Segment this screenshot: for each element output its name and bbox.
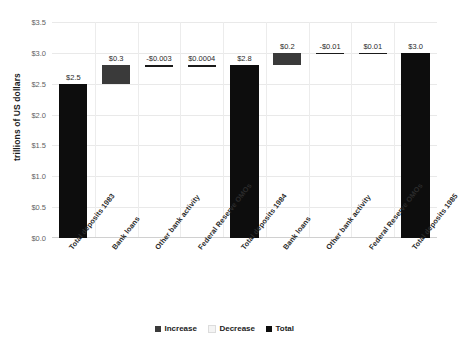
legend-item-total[interactable]: Total [266,324,294,333]
y-axis-tick-00: $0.0 [0,234,46,243]
column-separator [309,22,310,238]
bar-value-label-1: $0.3 [109,54,124,63]
bar-value-label-7: $0.01 [363,42,382,51]
legend-item-increase[interactable]: Increase [155,324,197,333]
bar-decrease-2[interactable] [145,65,173,66]
gridline [52,22,437,23]
column-separator [138,22,139,238]
column-separator [394,22,395,238]
column-separator [180,22,181,238]
column-separator [351,22,352,238]
legend-swatch-decrease-icon [208,325,216,333]
bar-value-label-2: -$0.003 [146,54,171,63]
bar-increase-7[interactable] [359,53,387,54]
y-axis-tick-35: $3.5 [0,18,46,27]
bar-value-label-3: $0.0004 [188,54,215,63]
y-axis-tick-20: $2.0 [0,110,46,119]
y-axis-tick-30: $3.0 [0,48,46,57]
chart-legend: IncreaseDecreaseTotal [0,324,449,333]
bar-value-label-0: $2.5 [66,73,81,82]
y-axis-tick-15: $1.5 [0,141,46,150]
bar-decrease-6[interactable] [316,53,344,54]
bar-increase-1[interactable] [102,65,130,84]
y-axis-tick-25: $2.5 [0,79,46,88]
column-separator [95,22,96,238]
legend-item-decrease[interactable]: Decrease [208,324,255,333]
bar-total-4[interactable] [230,65,258,238]
y-axis-tick-10: $1.0 [0,172,46,181]
bar-value-label-8: $3.0 [408,42,423,51]
column-separator [266,22,267,238]
bar-increase-5[interactable] [273,53,301,65]
legend-swatch-total-icon [266,326,272,332]
legend-label: Total [276,324,295,333]
legend-label: Decrease [219,324,255,333]
bar-increase-3[interactable] [188,65,216,66]
bar-value-label-5: $0.2 [280,42,295,51]
column-separator [223,22,224,238]
y-axis-tick-05: $0.5 [0,203,46,212]
legend-label: Increase [164,324,196,333]
legend-swatch-increase-icon [155,326,161,332]
bar-total-0[interactable] [59,84,87,238]
bar-value-label-6: -$0.01 [319,42,340,51]
bar-value-label-4: $2.8 [237,54,252,63]
